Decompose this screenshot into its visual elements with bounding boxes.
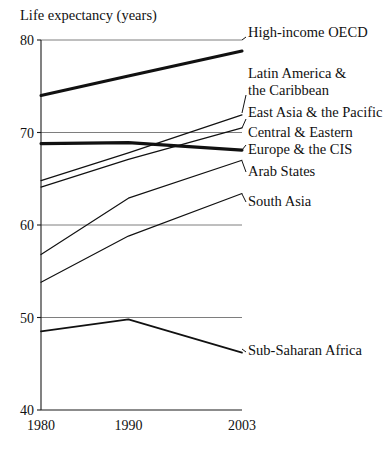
y-tick-label-70: 70 [20,126,34,141]
y-tick-label-40: 40 [20,403,34,418]
leader-line-arab-states [242,161,246,172]
gridlines [41,40,242,318]
chart-canvas: Life expectancy (years) 4050607080 19801… [0,0,383,456]
x-tick-label-1980: 1980 [27,418,55,433]
series-label-high-income-oecd: High-income OECD [248,24,368,40]
y-tick-label-50: 50 [20,311,34,326]
series-label-line: Sub-Saharan Africa [248,342,363,358]
series-label-line: Central & Eastern [248,124,353,140]
leader-line-sub-saharan-africa [242,349,246,352]
series-label-line: South Asia [248,193,312,209]
series-line-east-asia-and-the-pacific [41,128,242,187]
leader-line-south-asia [242,194,246,202]
series-label-arab-states: Arab States [248,163,316,179]
series-label-south-asia: South Asia [248,193,312,209]
x-axis-tick-labels: 198019902003 [27,418,256,433]
leader-line-high-income-oecd [242,37,246,40]
series-lines [41,51,242,353]
y-tick-label-80: 80 [20,33,34,48]
series-label-line: High-income OECD [248,24,368,40]
series-label-line: Europe & the CIS [248,141,352,157]
leader-line-east-asia-and-the-pacific [242,119,246,128]
y-tick-label-60: 60 [20,218,34,233]
series-label-line: the Caribbean [248,82,330,98]
leader-line-central-and-eastern-europe-and-the-cis [242,145,246,150]
series-label-line: Arab States [248,163,316,179]
series-label-east-asia-and-the-pacific: East Asia & the Pacific [248,104,383,120]
series-line-sub-saharan-africa [41,319,242,352]
x-tick-label-2003: 2003 [228,418,256,433]
x-tick-label-1990: 1990 [114,418,142,433]
series-label-line: Latin America & [248,65,347,81]
series-labels: High-income OECDLatin America &the Carib… [248,24,383,358]
series-line-high-income-oecd [41,51,242,95]
label-leader-lines [242,37,246,352]
y-axis-tick-labels: 4050607080 [20,33,41,418]
series-line-arab-states [41,160,242,254]
leader-line-latin-america-and-the-caribbean [242,95,246,113]
series-line-south-asia [41,194,242,283]
series-label-sub-saharan-africa: Sub-Saharan Africa [248,342,363,358]
series-label-central-and-eastern-europe-and-the-cis: Central & EasternEurope & the CIS [248,124,353,157]
life-expectancy-chart: Life expectancy (years) 4050607080 19801… [0,0,383,456]
chart-title: Life expectancy (years) [20,7,157,24]
series-label-line: East Asia & the Pacific [248,104,383,120]
series-label-latin-america-and-the-caribbean: Latin America &the Caribbean [248,65,347,98]
